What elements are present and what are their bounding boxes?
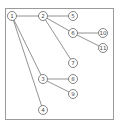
node-3: 3	[39, 75, 48, 84]
node-label: 3	[41, 76, 45, 82]
edge-6-11	[73, 33, 103, 48]
node-5: 5	[69, 12, 78, 21]
edges-group	[12, 16, 103, 110]
node-label: 1	[10, 13, 14, 19]
node-10: 10	[99, 29, 108, 38]
edge-2-7	[43, 16, 73, 63]
edge-2-6	[43, 16, 73, 33]
edge-1-3	[12, 16, 43, 79]
edge-1-4	[12, 16, 43, 110]
node-label: 10	[100, 30, 107, 36]
nodes-group: 1234567891011	[8, 12, 108, 115]
node-label: 8	[71, 76, 75, 82]
node-11: 11	[99, 44, 108, 53]
node-8: 8	[69, 75, 78, 84]
node-7: 7	[69, 59, 78, 68]
node-label: 4	[41, 107, 45, 113]
node-2: 2	[39, 12, 48, 21]
node-9: 9	[69, 90, 78, 99]
node-label: 7	[71, 60, 75, 66]
node-label: 2	[41, 13, 45, 19]
node-label: 5	[71, 13, 75, 19]
edge-3-9	[43, 79, 73, 94]
tree-diagram: 1234567891011	[0, 0, 123, 128]
node-label: 6	[71, 30, 75, 36]
node-1: 1	[8, 12, 17, 21]
node-4: 4	[39, 106, 48, 115]
node-label: 11	[100, 45, 107, 51]
node-6: 6	[69, 29, 78, 38]
node-label: 9	[71, 91, 75, 97]
